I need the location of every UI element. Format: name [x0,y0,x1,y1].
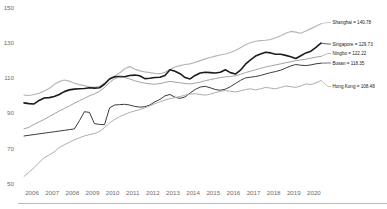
series-end-labels: Shanghai = 140.78Singapore = 129.73Ningb… [332,20,375,89]
x-tick-label: 2012 [146,189,160,196]
leader-line-singapore [321,43,331,44]
data-series-lines [24,24,321,177]
x-tick-label: 2010 [106,189,120,196]
y-tick-label: 50 [7,180,14,187]
x-tick-label: 2014 [186,189,200,196]
line-chart-container: 507090110130150 200620072008200920102011… [0,0,387,209]
series-label-ningbo: Ningbo = 122.22 [332,51,366,56]
chart-plot-area: 507090110130150 200620072008200920102011… [0,0,387,209]
x-tick-label: 2019 [287,189,301,196]
series-line-busan [24,63,321,136]
y-axis-tick-labels: 507090110130150 [4,4,15,187]
x-tick-label: 2008 [65,189,79,196]
y-tick-label: 90 [7,109,14,116]
series-label-busan: Busan = 118.35 [332,61,364,66]
x-tick-label: 2020 [307,189,321,196]
series-line-singapore [24,43,321,104]
series-label-shanghai: Shanghai = 140.78 [332,20,371,25]
x-axis-tick-labels: 2006200720082009201020112012201320142015… [25,189,321,196]
y-tick-label: 110 [4,74,14,81]
y-tick-label: 130 [4,39,15,46]
x-tick-label: 2013 [166,189,180,196]
x-tick-label: 2015 [206,189,220,196]
x-tick-label: 2018 [267,189,281,196]
leader-line-shanghai [321,23,331,24]
series-line-shanghai [24,24,321,96]
leader-line-ningbo [321,54,331,57]
series-label-hong-kong: Hong Kong = 108.48 [332,84,375,89]
x-tick-label: 2017 [247,189,261,196]
x-tick-label: 2007 [45,189,59,196]
y-tick-label: 70 [7,145,14,152]
series-label-leader-lines [321,23,331,87]
x-tick-label: 2006 [25,189,39,196]
x-tick-label: 2016 [227,189,241,196]
series-label-singapore: Singapore = 129.73 [332,42,373,47]
leader-line-hong-kong [321,81,331,87]
x-tick-label: 2011 [126,189,140,196]
series-line-ningbo [24,56,321,129]
x-tick-label: 2009 [86,189,100,196]
series-line-hong-kong [24,81,321,177]
y-tick-label: 150 [4,4,15,11]
